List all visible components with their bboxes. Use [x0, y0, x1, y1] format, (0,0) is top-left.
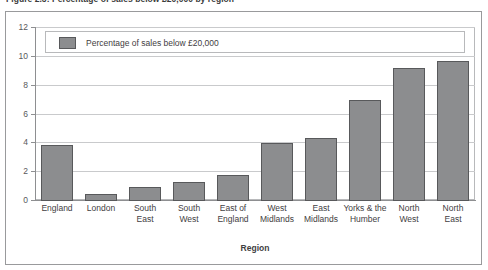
- bar-slot: [167, 28, 211, 201]
- y-tick-label-0: 0: [2, 196, 28, 204]
- y-tick-label-6: 6: [2, 110, 28, 118]
- x-axis-label-line: North: [387, 203, 431, 214]
- x-axis-label-line: South: [167, 203, 211, 214]
- bar-slot: [343, 28, 387, 201]
- legend-swatch-icon: [59, 37, 76, 49]
- bars-group: [35, 27, 475, 201]
- x-axis-label-line: Midlands: [299, 214, 343, 225]
- bar[interactable]: [261, 143, 293, 201]
- bar-slot: [431, 28, 475, 201]
- x-axis-title: Region: [35, 243, 475, 253]
- x-axis-label-line: East: [431, 214, 475, 225]
- y-tick-label-8: 8: [2, 81, 28, 89]
- bar[interactable]: [217, 175, 249, 201]
- x-axis-label-line: Humber: [343, 214, 387, 225]
- bar[interactable]: [85, 194, 117, 201]
- x-axis-label: SouthWest: [167, 203, 211, 224]
- chart-figure: Figure 2.3: Percentage of sales below £2…: [0, 0, 488, 270]
- figure-caption: Figure 2.3: Percentage of sales below £2…: [6, 0, 476, 6]
- chart-legend: Percentage of sales below £20,000: [45, 31, 465, 53]
- x-axis-label-line: Midlands: [255, 214, 299, 225]
- bar-slot: [79, 28, 123, 201]
- bar[interactable]: [393, 68, 425, 201]
- x-axis-label-line: South: [123, 203, 167, 214]
- x-axis-label-line: West: [387, 214, 431, 225]
- y-tick-label-10: 10: [2, 52, 28, 60]
- x-axis-label-line: East of: [211, 203, 255, 214]
- bar-slot: [299, 28, 343, 201]
- x-axis-label-line: East: [299, 203, 343, 214]
- y-tick-label-12: 12: [2, 23, 28, 31]
- y-tick-label-4: 4: [2, 138, 28, 146]
- x-axis-label-line: London: [79, 203, 123, 214]
- x-axis-label-line: England: [211, 214, 255, 225]
- x-axis-label: Yorks & theHumber: [343, 203, 387, 224]
- x-axis-label: SouthEast: [123, 203, 167, 224]
- legend-label: Percentage of sales below £20,000: [86, 38, 219, 48]
- bar-slot: [123, 28, 167, 201]
- x-axis-label: NorthWest: [387, 203, 431, 224]
- bar[interactable]: [349, 100, 381, 201]
- x-axis-label-line: West: [255, 203, 299, 214]
- x-axis-label: England: [35, 203, 79, 214]
- bar[interactable]: [173, 182, 205, 201]
- x-axis-labels-group: EnglandLondonSouthEastSouthWestEast ofEn…: [35, 203, 475, 237]
- bar-slot: [255, 28, 299, 201]
- x-axis-label-line: West: [167, 214, 211, 225]
- x-axis-label: London: [79, 203, 123, 214]
- bar[interactable]: [305, 138, 337, 201]
- x-axis-label-line: North: [431, 203, 475, 214]
- x-axis-label-line: Yorks & the: [343, 203, 387, 214]
- bar[interactable]: [129, 187, 161, 201]
- bar-slot: [387, 28, 431, 201]
- bar[interactable]: [41, 145, 73, 201]
- x-axis-label-line: England: [35, 203, 79, 214]
- bar-slot: [211, 28, 255, 201]
- x-axis-label-line: East: [123, 214, 167, 225]
- bar[interactable]: [437, 61, 469, 201]
- x-axis-label: WestMidlands: [255, 203, 299, 224]
- x-axis-label: NorthEast: [431, 203, 475, 224]
- y-tick-label-2: 2: [2, 167, 28, 175]
- x-axis-label: East ofEngland: [211, 203, 255, 224]
- x-axis-label: EastMidlands: [299, 203, 343, 224]
- bar-slot: [35, 28, 79, 201]
